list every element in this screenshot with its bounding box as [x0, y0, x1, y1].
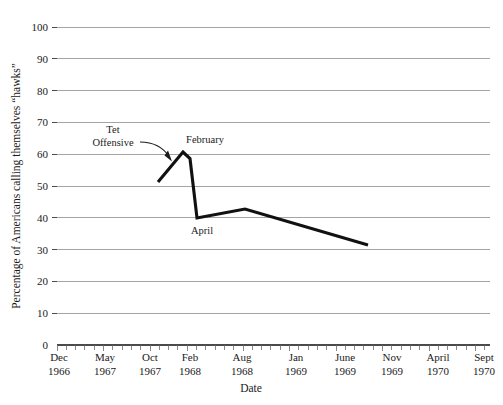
y-tick-label: 70 — [37, 116, 49, 128]
x-tick-year: 1966 — [48, 365, 71, 377]
x-tick-month: Jan — [289, 351, 304, 363]
x-axis-title: Date — [240, 382, 262, 394]
x-tick-month: June — [335, 351, 355, 363]
y-tick-label: 0 — [43, 339, 49, 351]
x-tick-month: Dec — [50, 351, 68, 363]
x-tick-month: April — [426, 351, 449, 363]
x-tick-month: Nov — [383, 351, 402, 363]
y-tick-label: 80 — [37, 85, 49, 97]
y-tick-label: 30 — [37, 244, 49, 256]
annotation-february: February — [186, 134, 225, 145]
x-tick-year: 1970 — [427, 365, 450, 377]
y-axis-title: Percentage of Americans calling themselv… — [10, 63, 23, 309]
y-tick-label: 60 — [37, 148, 49, 160]
chart-background — [0, 0, 503, 405]
x-tick-year: 1969 — [381, 365, 404, 377]
y-tick-label: 90 — [37, 53, 49, 65]
y-tick-label: 100 — [32, 21, 49, 33]
x-tick-month: May — [95, 351, 116, 363]
y-tick-label: 50 — [37, 180, 49, 192]
x-tick-month: Feb — [182, 351, 199, 363]
x-tick-year: 1969 — [334, 365, 357, 377]
annotation-tet-line2: Offensive — [92, 137, 134, 148]
x-tick-year: 1967 — [139, 365, 162, 377]
line-chart: 100 90 80 70 60 50 40 30 20 10 0 Percent… — [0, 0, 503, 405]
chart-figure: 100 90 80 70 60 50 40 30 20 10 0 Percent… — [0, 0, 503, 405]
y-tick-label: 20 — [37, 275, 49, 287]
x-tick-year: 1968 — [179, 365, 202, 377]
x-tick-year: 1967 — [94, 365, 117, 377]
annotation-tet-line1: Tet — [106, 124, 119, 135]
x-tick-year: 1970 — [473, 365, 496, 377]
y-tick-label: 10 — [37, 307, 49, 319]
y-tick-label: 40 — [37, 212, 49, 224]
x-tick-year: 1969 — [285, 365, 308, 377]
x-tick-month: Oct — [142, 351, 158, 363]
x-tick-month: Aug — [233, 351, 252, 363]
x-tick-year: 1968 — [231, 365, 254, 377]
x-tick-month: Sept — [474, 351, 494, 363]
annotation-april: April — [191, 225, 213, 236]
